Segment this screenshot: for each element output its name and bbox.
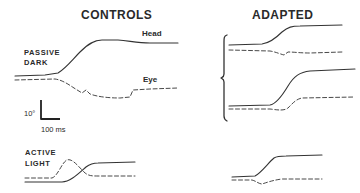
adapted-trial2-eye-trace	[229, 97, 355, 110]
figure: CONTROLS ADAPTED PASSIVE DARK Head Eye 1…	[0, 0, 360, 193]
scale-bar	[41, 100, 60, 119]
passive-label-line2: DARK	[24, 58, 48, 68]
adapted-title: ADAPTED	[252, 8, 314, 22]
scale-vertical-label: 10°	[24, 109, 35, 118]
adapted-active-head-trace	[232, 155, 322, 177]
controls-title: CONTROLS	[81, 8, 152, 22]
head-label: Head	[142, 29, 162, 38]
traces-canvas	[0, 0, 360, 193]
adapted-trial1-head-trace	[229, 25, 342, 45]
eye-label: Eye	[143, 75, 157, 84]
adapted-trial1-eye-trace	[229, 50, 342, 55]
scale-horizontal-label: 100 ms	[41, 125, 66, 134]
passive-label-line1: PASSIVE	[24, 48, 60, 58]
adapted-active-eye-trace	[232, 179, 322, 184]
active-label-line1: ACTIVE	[25, 148, 56, 158]
adapted-bracket	[221, 35, 227, 121]
active-label-line2: LIGHT	[25, 159, 51, 169]
adapted-trial2-head-trace	[229, 69, 355, 106]
